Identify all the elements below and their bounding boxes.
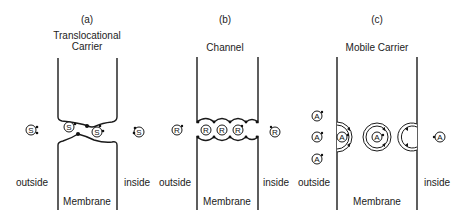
solute-molecule-released: A — [433, 132, 445, 142]
panel-letter: (a) — [81, 14, 93, 25]
membrane-label: Membrane — [203, 196, 251, 207]
panel-title-line2: Carrier — [72, 41, 103, 52]
svg-text:R: R — [235, 126, 241, 135]
panel-title: Channel — [206, 42, 243, 53]
svg-text:S: S — [28, 126, 33, 135]
panel-letter: (b) — [219, 14, 231, 25]
mobile-carrier-empty — [398, 123, 417, 151]
inside-label: inside — [263, 177, 290, 188]
inside-label: inside — [424, 177, 451, 188]
panel-letter: (c) — [371, 14, 383, 25]
solute-molecule: A — [312, 154, 323, 164]
ion-molecule: R — [172, 125, 183, 135]
membrane-transport-diagram: (a) Translocational Carrier S S S S — [0, 0, 470, 220]
svg-text:A: A — [339, 133, 345, 142]
substrate-molecule-bound: S — [64, 122, 80, 136]
channel-upper-wall — [197, 57, 258, 122]
binding-site-dot — [85, 124, 89, 128]
mobile-carrier-loaded: A — [337, 122, 352, 152]
panel-title: Translocational — [53, 30, 120, 41]
svg-text:S: S — [136, 128, 141, 137]
svg-text:A: A — [314, 133, 320, 142]
panel-translocational-carrier: (a) Translocational Carrier S S S S — [16, 14, 151, 210]
solute-molecule: A — [312, 111, 323, 121]
panel-mobile-carrier: (c) Mobile Carrier A A A A — [298, 14, 451, 210]
ion-molecule: R — [270, 126, 280, 137]
outside-label: outside — [159, 177, 192, 188]
panel-channel: (b) Channel R R R R — [159, 14, 290, 210]
ion-molecule-in-channel: R — [217, 125, 227, 135]
membrane-label: Membrane — [63, 196, 111, 207]
svg-text:S: S — [66, 123, 71, 132]
svg-text:A: A — [314, 112, 320, 121]
svg-text:A: A — [314, 155, 320, 164]
membrane-label: Membrane — [353, 196, 401, 207]
ion-molecule-in-channel: R — [233, 125, 243, 135]
svg-text:A: A — [374, 133, 380, 142]
substrate-molecule: S — [26, 125, 38, 135]
ion-molecule-in-channel: R — [201, 125, 211, 135]
inside-label: inside — [124, 177, 151, 188]
substrate-molecule: S — [133, 127, 144, 137]
mobile-carrier-loaded: A — [363, 123, 391, 151]
outside-label: outside — [298, 177, 331, 188]
membrane-upper-wall — [58, 58, 117, 127]
svg-text:R: R — [272, 128, 278, 137]
panel-title: Mobile Carrier — [346, 42, 409, 53]
svg-text:R: R — [174, 126, 180, 135]
svg-text:R: R — [219, 126, 225, 135]
svg-text:S: S — [94, 128, 99, 137]
solute-molecule: A — [312, 132, 323, 142]
outside-label: outside — [16, 177, 49, 188]
svg-text:A: A — [437, 133, 443, 142]
svg-text:R: R — [203, 126, 209, 135]
